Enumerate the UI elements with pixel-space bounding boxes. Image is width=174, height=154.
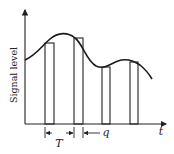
sample-pulse-2 xyxy=(74,38,83,124)
pulse-width-label: q xyxy=(102,126,109,139)
y-axis-label: Signal level xyxy=(8,47,19,103)
sampling-diagram: T q t Signal level xyxy=(0,0,174,154)
x-axis-label: t xyxy=(159,125,164,138)
period-label: T xyxy=(55,137,64,150)
sample-pulse-1 xyxy=(45,43,54,124)
sample-pulse-4 xyxy=(130,62,138,124)
signal-curve xyxy=(25,34,152,79)
sample-pulse-3 xyxy=(102,67,110,124)
